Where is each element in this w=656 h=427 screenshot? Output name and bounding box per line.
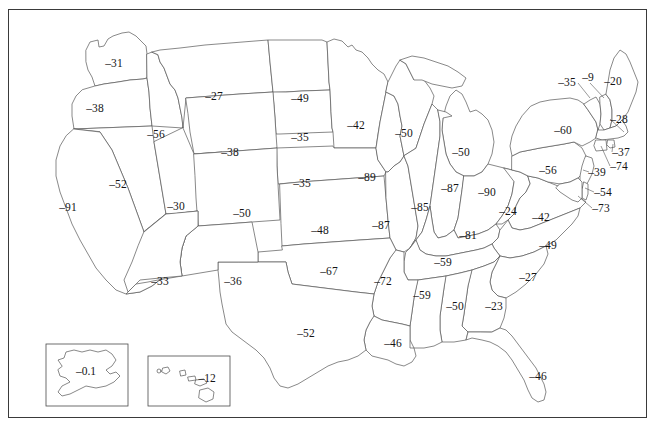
state-value-ny: –60	[554, 124, 572, 136]
state-value-al: –50	[446, 300, 464, 312]
state-value-ca: –91	[59, 201, 77, 213]
state-value-nv: –52	[109, 178, 127, 190]
state-value-ms: –59	[413, 289, 431, 301]
state-value-az: –33	[151, 275, 169, 287]
state-value-ar: –72	[374, 275, 392, 287]
state-value-de: –54	[594, 186, 612, 198]
state-value-md: –73	[592, 202, 610, 214]
state-value-sc: –27	[519, 271, 537, 283]
state-value-nj: –39	[588, 166, 606, 178]
state-value-id: –56	[147, 128, 165, 140]
state-value-mn: –42	[347, 119, 365, 131]
state-value-ri: –37	[612, 146, 630, 158]
state-value-fl: –46	[529, 370, 547, 382]
inset-value-hi: –12	[198, 372, 215, 384]
state-value-ne: –35	[293, 177, 311, 189]
us-map-geometry	[0, 0, 656, 427]
state-value-vt: –35	[558, 76, 576, 88]
us-state-value-map: –31–38–56–27–49–38–35–42–35–89–50–50–52–…	[0, 0, 656, 427]
state-value-wy: –38	[221, 146, 239, 158]
state-value-nh: –9	[582, 71, 594, 83]
state-value-wa: –31	[105, 57, 123, 69]
state-value-oh: –90	[478, 186, 496, 198]
leader-line-nh	[590, 83, 604, 98]
state-value-ky: –81	[459, 229, 477, 241]
state-value-nd: –49	[291, 92, 309, 104]
state-value-mo: –87	[372, 219, 390, 231]
state-value-ct: –74	[610, 160, 628, 172]
state-value-ga: –23	[485, 300, 503, 312]
state-value-nm: –36	[224, 275, 242, 287]
state-value-sd: –35	[291, 131, 309, 143]
state-value-nc: –49	[539, 239, 557, 251]
hawaii-island-niihau	[157, 369, 161, 373]
state-value-va: –42	[532, 211, 550, 223]
hawaii-island-molokai	[188, 376, 196, 381]
state-value-la: –46	[384, 337, 402, 349]
state-value-wi: –50	[395, 127, 413, 139]
state-outlines	[56, 32, 638, 402]
state-value-mi: –50	[452, 146, 470, 158]
hawaii-inset	[148, 356, 230, 406]
state-shape-nd	[268, 40, 330, 92]
state-value-or: –38	[86, 102, 104, 114]
state-value-me: –20	[604, 75, 622, 87]
state-value-ma: –28	[610, 113, 628, 125]
state-value-in: –87	[441, 182, 459, 194]
state-shape-fl	[466, 328, 546, 402]
state-shape-wy	[186, 92, 277, 154]
state-value-tn: –59	[434, 256, 452, 268]
state-value-ut: –30	[167, 200, 185, 212]
state-value-il: –85	[411, 201, 429, 213]
state-value-co: –50	[233, 207, 251, 219]
state-value-mt: –27	[205, 90, 223, 102]
leader-line-vt	[578, 83, 590, 98]
state-value-pa: –56	[539, 164, 557, 176]
state-value-ks: –48	[311, 224, 329, 236]
state-value-ok: –67	[320, 265, 338, 277]
state-value-tx: –52	[297, 327, 315, 339]
state-shape-or	[72, 78, 152, 129]
inset-value-ak: –0.1	[76, 365, 96, 377]
state-value-wv: –24	[499, 205, 517, 217]
state-value-ia: –89	[358, 171, 376, 183]
state-shape-ct	[594, 140, 607, 151]
hawaii-island-oahu	[180, 370, 186, 376]
